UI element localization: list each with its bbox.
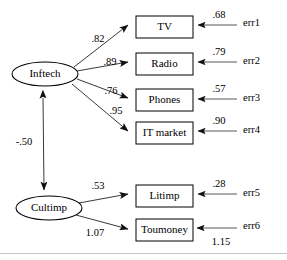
observed-label-phones: Phones bbox=[149, 93, 181, 105]
error-node-err2[interactable]: err2 bbox=[243, 55, 260, 66]
observed-label-it-market: IT market bbox=[143, 126, 186, 138]
variance-err2: .79 bbox=[212, 46, 225, 57]
error-node-err1[interactable]: err1 bbox=[243, 17, 260, 28]
path-inftech-tv bbox=[74, 25, 128, 67]
error-node-err5[interactable]: err5 bbox=[243, 187, 260, 198]
variance-err1: .68 bbox=[212, 9, 225, 20]
latent-node-cultimp[interactable]: Cultimp bbox=[16, 196, 82, 220]
observed-label-tv: TV bbox=[157, 20, 172, 32]
observed-label-radio: Radio bbox=[151, 57, 178, 69]
observed-node-litimp[interactable]: Litimp bbox=[136, 185, 193, 207]
variance-err4: .90 bbox=[212, 115, 225, 126]
latent-label-inftech: Inftech bbox=[29, 67, 61, 79]
sem-path-diagram: TV Radio Phones IT market Litimp Toumone… bbox=[0, 0, 287, 260]
sem-diagram-canvas: TV Radio Phones IT market Litimp Toumone… bbox=[0, 0, 287, 260]
observed-label-toumoney: Toumoney bbox=[141, 223, 188, 235]
observed-node-radio[interactable]: Radio bbox=[136, 53, 193, 75]
observed-node-toumoney[interactable]: Toumoney bbox=[136, 219, 193, 241]
observed-node-tv[interactable]: TV bbox=[136, 16, 193, 38]
coefficient-inftech-it-market: .95 bbox=[109, 105, 122, 116]
path-cultimp-litimp bbox=[79, 194, 128, 203]
coefficient-inftech-cultimp-covariance: -.50 bbox=[16, 136, 33, 147]
error-node-err3[interactable]: err3 bbox=[243, 92, 260, 103]
covariance-arrow-inftech-cultimp bbox=[43, 98, 44, 190]
observed-node-it-market[interactable]: IT market bbox=[136, 122, 193, 144]
error-node-err4[interactable]: err4 bbox=[243, 124, 261, 135]
variance-err5: .28 bbox=[212, 178, 225, 189]
coefficient-cultimp-litimp: .53 bbox=[91, 180, 104, 191]
coefficient-inftech-radio: .89 bbox=[103, 56, 116, 67]
coefficient-cultimp-toumoney: 1.07 bbox=[86, 227, 104, 238]
observed-node-phones[interactable]: Phones bbox=[136, 89, 193, 111]
variance-err6: 1.15 bbox=[212, 236, 230, 247]
variance-err3: .57 bbox=[212, 83, 225, 94]
observed-label-litimp: Litimp bbox=[150, 189, 180, 201]
coefficient-inftech-phones: .76 bbox=[104, 85, 117, 96]
latent-label-cultimp: Cultimp bbox=[31, 201, 68, 213]
latent-node-inftech[interactable]: Inftech bbox=[12, 62, 78, 86]
coefficient-inftech-tv: .82 bbox=[91, 33, 104, 44]
error-node-err6[interactable]: err6 bbox=[243, 220, 260, 231]
